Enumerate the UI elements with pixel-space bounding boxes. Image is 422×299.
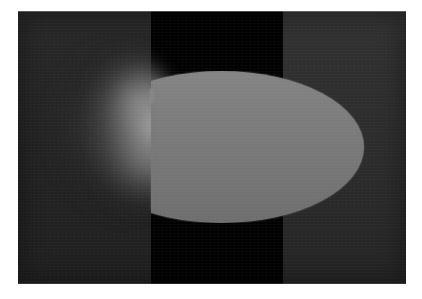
body-left-cut-face xyxy=(151,85,155,209)
figure-title xyxy=(0,0,1,1)
figure-caption xyxy=(0,0,1,1)
image-frame xyxy=(18,11,406,284)
body-clip-region xyxy=(151,71,366,223)
figure-root xyxy=(0,0,422,299)
body-edge-softening xyxy=(151,71,365,223)
body-left-notch xyxy=(149,89,154,103)
